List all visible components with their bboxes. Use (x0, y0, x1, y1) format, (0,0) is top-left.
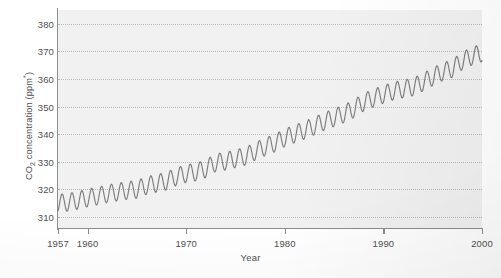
y-tick-label-380: 380 (20, 18, 54, 29)
x-axis-title: Year (0, 252, 501, 263)
x-tick-mark-1980 (285, 228, 286, 234)
x-tick-label-1970: 1970 (175, 238, 197, 249)
x-tick-label-1980: 1980 (274, 238, 296, 249)
x-tick-mark-2000 (482, 228, 483, 234)
y-axis-title: CO2 concentration (ppm*) (22, 36, 36, 216)
x-axis-line (57, 228, 483, 229)
co2-concentration-chart: 310320330340350360370380 195719601970198… (0, 0, 501, 278)
co2-data-curve (58, 10, 482, 228)
x-tick-label-1957: 1957 (47, 238, 69, 249)
x-tick-mark-1990 (383, 228, 384, 234)
x-tick-mark-1970 (186, 228, 187, 234)
x-tick-label-1990: 1990 (373, 238, 395, 249)
x-tick-mark-1957 (58, 228, 59, 234)
x-tick-label-2000: 2000 (471, 238, 493, 249)
x-tick-mark-1960 (88, 228, 89, 234)
x-tick-label-1960: 1960 (77, 238, 99, 249)
